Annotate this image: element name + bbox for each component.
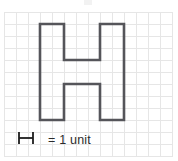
top-edge-artifact	[84, 0, 92, 5]
legend-unit-symbol	[4, 12, 173, 157]
grid-area	[4, 12, 173, 157]
figure-root: = 1 unit	[0, 0, 178, 161]
